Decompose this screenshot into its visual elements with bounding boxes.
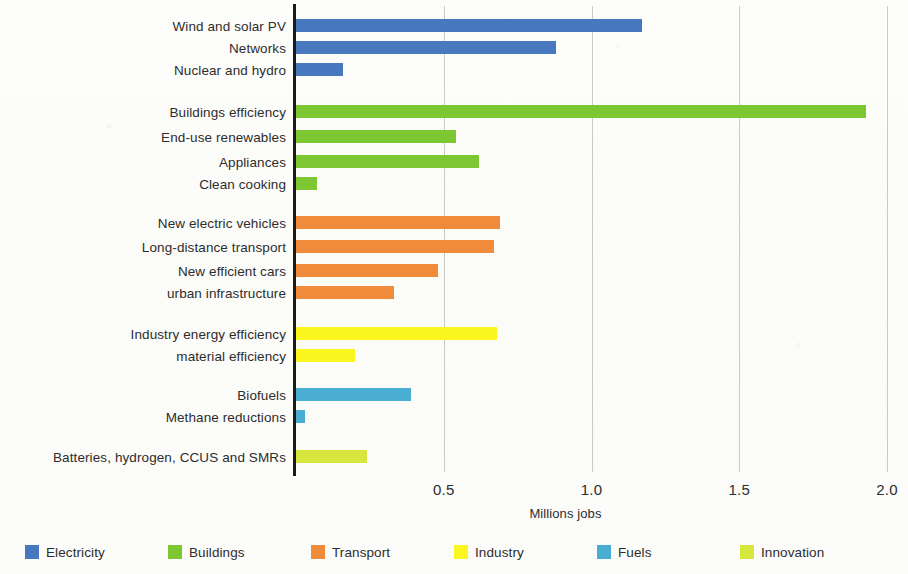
bar-row: Buildings efficiency — [0, 104, 908, 119]
bar-row: Nuclear and hydro — [0, 62, 908, 77]
bar — [296, 410, 305, 423]
legend-item-fuels[interactable]: Fuels — [597, 545, 740, 560]
bar-row: Long-distance transport — [0, 239, 908, 254]
bar-label: Wind and solar PV — [172, 18, 286, 33]
bar-label: Nuclear and hydro — [174, 62, 286, 77]
x-tick-label: 1.5 — [729, 481, 750, 498]
legend-swatch-icon — [740, 545, 754, 559]
bar-row: Appliances — [0, 154, 908, 169]
bar-row: Biofuels — [0, 387, 908, 402]
bar-row: Clean cooking — [0, 176, 908, 191]
legend-label: Innovation — [761, 545, 824, 560]
bar-label: Clean cooking — [199, 176, 286, 191]
bar-row: material efficiency — [0, 348, 908, 363]
legend-label: Industry — [475, 545, 524, 560]
bar — [296, 177, 317, 190]
bar-label: material efficiency — [176, 348, 286, 363]
plot-area: Wind and solar PVNetworksNuclear and hyd… — [0, 0, 908, 500]
legend-item-electricity[interactable]: Electricity — [25, 545, 168, 560]
bar-label: New efficient cars — [178, 263, 286, 278]
x-tick-label: 0.5 — [433, 481, 454, 498]
bar — [296, 264, 438, 277]
bar-label: urban infrastructure — [167, 285, 286, 300]
bar — [296, 105, 866, 118]
bar — [296, 240, 494, 253]
legend-label: Electricity — [46, 545, 105, 560]
bar — [296, 41, 556, 54]
legend-item-buildings[interactable]: Buildings — [168, 545, 311, 560]
bar — [296, 286, 394, 299]
bar — [296, 130, 456, 143]
bar — [296, 19, 642, 32]
bar-label: New electric vehicles — [158, 215, 286, 230]
legend-item-innovation[interactable]: Innovation — [740, 545, 883, 560]
bar — [296, 155, 479, 168]
bar — [296, 349, 355, 362]
legend-swatch-icon — [168, 545, 182, 559]
bar-row: urban infrastructure — [0, 285, 908, 300]
bar-label: Industry energy efficiency — [131, 326, 286, 341]
bar — [296, 216, 500, 229]
x-tick-label: 2.0 — [876, 481, 897, 498]
bar-row: Batteries, hydrogen, CCUS and SMRs — [0, 449, 908, 464]
bar-row: New electric vehicles — [0, 215, 908, 230]
bar-row: End-use renewables — [0, 129, 908, 144]
bar-label: Appliances — [219, 154, 286, 169]
legend-label: Transport — [332, 545, 390, 560]
bar-label: Biofuels — [237, 387, 286, 402]
bar-label: Methane reductions — [166, 409, 286, 424]
legend-item-industry[interactable]: Industry — [454, 545, 597, 560]
x-axis-title: Millions jobs — [0, 506, 908, 521]
bar-label: Networks — [229, 40, 286, 55]
legend-swatch-icon — [454, 545, 468, 559]
bar-row: Methane reductions — [0, 409, 908, 424]
bar — [296, 327, 497, 340]
bar-label: Buildings efficiency — [169, 104, 286, 119]
legend-label: Fuels — [618, 545, 652, 560]
bar-row: Networks — [0, 40, 908, 55]
bar-row: New efficient cars — [0, 263, 908, 278]
bar-label: Batteries, hydrogen, CCUS and SMRs — [53, 449, 286, 464]
bar — [296, 63, 343, 76]
legend-swatch-icon — [311, 545, 325, 559]
legend-label: Buildings — [189, 545, 245, 560]
jobs-bar-chart: Wind and solar PVNetworksNuclear and hyd… — [0, 0, 908, 574]
chart-legend: ElectricityBuildingsTransportIndustryFue… — [0, 540, 908, 564]
bar-row: Industry energy efficiency — [0, 326, 908, 341]
x-tick-label: 1.0 — [581, 481, 602, 498]
bar — [296, 388, 411, 401]
bar-row: Wind and solar PV — [0, 18, 908, 33]
legend-item-transport[interactable]: Transport — [311, 545, 454, 560]
x-axis-title-text: Millions jobs — [529, 506, 601, 521]
legend-swatch-icon — [25, 545, 39, 559]
legend-swatch-icon — [597, 545, 611, 559]
bar-label: End-use renewables — [161, 129, 286, 144]
bar — [296, 450, 367, 463]
bar-label: Long-distance transport — [142, 239, 286, 254]
